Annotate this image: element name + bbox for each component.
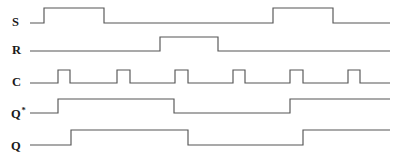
- timing-diagram: SRCQ*Q: [0, 0, 397, 155]
- signal-label-c: C: [12, 76, 21, 89]
- signal-label-text: R: [12, 43, 21, 57]
- waveform-trace-s: [30, 8, 390, 23]
- signal-label-text: Q: [11, 139, 21, 153]
- waveform-canvas: [0, 0, 397, 155]
- waveform-trace-qstar: [30, 99, 390, 113]
- signal-label-text: Q: [11, 107, 21, 121]
- signal-label-r: R: [12, 44, 21, 57]
- signal-label-text: S: [12, 15, 19, 29]
- signal-label-text: C: [12, 75, 21, 89]
- waveform-trace-r: [30, 37, 390, 51]
- waveform-traces: [30, 8, 390, 145]
- signal-label-superscript: *: [21, 105, 25, 115]
- waveform-trace-q: [30, 130, 390, 145]
- waveform-trace-c: [30, 70, 390, 83]
- signal-label-qstar: Q*: [11, 108, 26, 121]
- signal-label-s: S: [12, 16, 19, 29]
- signal-label-q: Q: [11, 140, 21, 153]
